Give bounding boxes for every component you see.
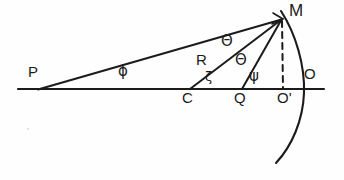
angle-label-phi: ϕ [118, 64, 128, 79]
point-label-m: M [289, 2, 303, 19]
angle-label-theta-lower: Θ [235, 53, 247, 68]
scan-speck [27, 128, 29, 130]
geometry-diagram: P ϕ C ζ R Θ Θ Q ψ O' O M [0, 0, 344, 180]
angle-label-theta-upper: Θ [221, 34, 233, 49]
angle-label-zeta: ζ [205, 70, 212, 83]
dashed-perpendicular-m-to-o-prime [282, 21, 283, 89]
point-label-q: Q [234, 90, 246, 105]
point-label-o: O [304, 66, 316, 81]
mirror-arc [276, 11, 304, 163]
diagram-canvas [0, 0, 344, 180]
length-label-radius: R [196, 52, 207, 67]
point-label-p: P [28, 64, 38, 79]
angle-label-psi: ψ [249, 69, 259, 84]
point-label-c: C [182, 90, 193, 105]
point-label-o-prime: O' [277, 90, 292, 105]
